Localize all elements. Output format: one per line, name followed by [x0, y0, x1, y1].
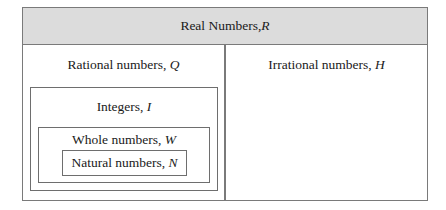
natural-numbers-label: Natural numbers, N	[62, 155, 187, 171]
rational-numbers-text: Rational numbers,	[67, 57, 169, 72]
irrational-numbers-symbol: H	[375, 57, 385, 72]
natural-numbers-symbol: N	[169, 155, 178, 170]
whole-numbers-symbol: W	[165, 132, 176, 147]
natural-numbers-text: Natural numbers,	[71, 155, 168, 170]
irrational-numbers-label: Irrational numbers, H	[225, 57, 428, 73]
real-numbers-header: Real Numbers, R	[22, 7, 428, 45]
whole-numbers-label: Whole numbers, W	[38, 132, 210, 148]
rational-numbers-symbol: Q	[170, 57, 180, 72]
integers-text: Integers,	[97, 99, 147, 114]
real-numbers-label: Real Numbers,	[180, 18, 261, 34]
rational-numbers-label: Rational numbers, Q	[22, 57, 225, 73]
real-numbers-symbol: R	[261, 18, 269, 34]
integers-symbol: I	[147, 99, 152, 114]
integers-label: Integers, I	[30, 99, 218, 115]
irrational-numbers-text: Irrational numbers,	[268, 57, 375, 72]
whole-numbers-text: Whole numbers,	[72, 132, 165, 147]
